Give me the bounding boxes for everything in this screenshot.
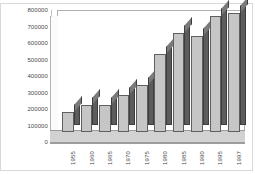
bar-side-face: [166, 47, 172, 125]
bar-front-face: [99, 105, 110, 132]
y-axis-tick-label: 500000: [6, 56, 48, 63]
bar-front-face: [62, 112, 73, 132]
bar: [173, 26, 184, 132]
bar-side-face: [148, 78, 154, 125]
bar-front-face: [210, 16, 221, 132]
y-axis-tick-label: 0: [6, 139, 48, 146]
x-axis-tick-label: 1970: [125, 151, 132, 165]
bar-front-face: [191, 36, 202, 132]
x-axis-tick-label: 1997: [236, 151, 243, 165]
bar: [154, 47, 165, 132]
bar: [191, 29, 202, 132]
bar: [99, 98, 110, 132]
bar-chart: 0100000200000300000400000500000600000700…: [0, 0, 255, 174]
y-axis-tick-label: 700000: [6, 23, 48, 30]
bar-front-face: [228, 13, 239, 132]
bar: [210, 9, 221, 132]
bar-side-face: [221, 9, 227, 125]
plot-area: [50, 10, 245, 144]
bar-side-face: [203, 29, 209, 125]
bar-side-face: [184, 26, 190, 125]
y-axis-tick-label: 300000: [6, 89, 48, 96]
x-axis-tick-label: 1985: [181, 151, 188, 165]
x-axis-tick-labels: 1955196019651970197519801985199019951997: [50, 143, 245, 174]
bar: [228, 6, 239, 132]
bar-front-face: [154, 54, 165, 132]
bar: [62, 105, 73, 132]
y-axis-tick-label: 600000: [6, 40, 48, 47]
x-axis-tick-label: 1995: [217, 151, 224, 165]
bar-front-face: [118, 95, 129, 132]
y-axis-tick-label: 100000: [6, 122, 48, 129]
y-axis-tick-labels: 0100000200000300000400000500000600000700…: [6, 10, 48, 142]
x-axis-tick-label: 1955: [70, 151, 77, 165]
bar-front-face: [136, 85, 147, 132]
x-axis-tick-label: 1980: [162, 151, 169, 165]
bar-side-face: [240, 6, 246, 125]
bar: [81, 98, 92, 132]
bar-front-face: [81, 105, 92, 132]
x-axis-tick-label: 1990: [199, 151, 206, 165]
bar-front-face: [173, 33, 184, 132]
x-axis-tick-label: 1965: [107, 151, 114, 165]
bar: [118, 88, 129, 132]
y-axis-tick-label: 800000: [6, 7, 48, 14]
x-axis-tick-label: 1960: [89, 151, 96, 165]
bar: [136, 78, 147, 132]
y-axis-tick-label: 200000: [6, 106, 48, 113]
x-axis-tick-label: 1975: [144, 151, 151, 165]
y-axis-tick-label: 400000: [6, 73, 48, 80]
bar-series: [50, 10, 245, 144]
